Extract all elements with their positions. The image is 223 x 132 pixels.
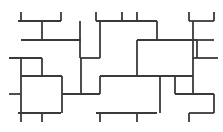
tiling-pattern-figure (0, 0, 223, 132)
tiling-pattern-svg (0, 0, 223, 132)
